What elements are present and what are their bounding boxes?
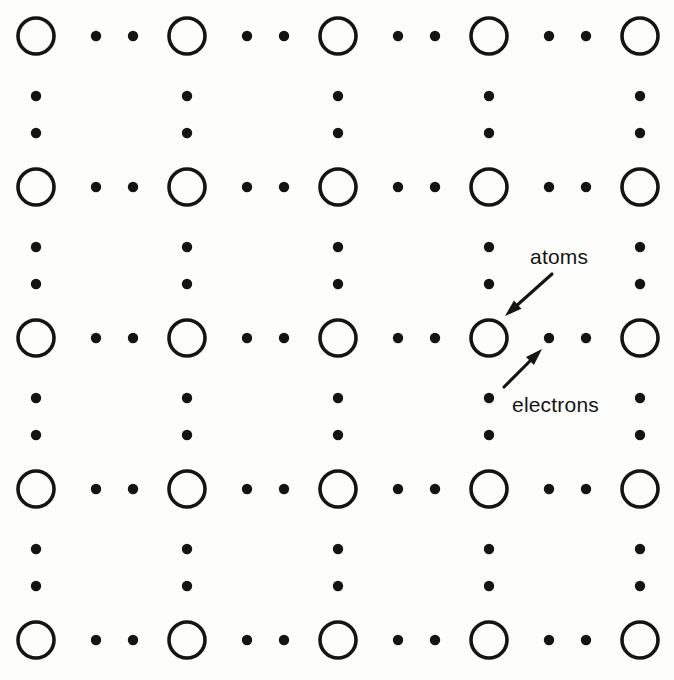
electron-dot: [544, 333, 554, 343]
electron-dot: [91, 484, 101, 494]
electron-dot: [31, 544, 41, 554]
electron-dot: [430, 182, 440, 192]
electron-dot: [182, 581, 192, 591]
electron-dot: [393, 484, 403, 494]
electron-dot: [128, 182, 138, 192]
electron-dot: [581, 333, 591, 343]
electron-dot: [544, 31, 554, 41]
electron-dot: [484, 128, 494, 138]
electron-dot: [182, 128, 192, 138]
lattice-diagram: atoms electrons: [0, 0, 674, 680]
electron-dot: [31, 279, 41, 289]
electron-dot: [31, 393, 41, 403]
electron-dot: [279, 484, 289, 494]
electron-dot: [182, 242, 192, 252]
electron-dot: [635, 581, 645, 591]
electron-dot: [581, 182, 591, 192]
electron-dot: [635, 393, 645, 403]
electron-dot: [279, 182, 289, 192]
electron-dot: [128, 31, 138, 41]
electron-dot: [31, 128, 41, 138]
figure-background: [0, 0, 674, 680]
electron-dot: [581, 635, 591, 645]
electron-dot: [333, 430, 343, 440]
electron-dot: [544, 484, 554, 494]
electron-dot: [430, 31, 440, 41]
electron-dot: [581, 484, 591, 494]
lattice-figure: atoms electrons: [0, 0, 674, 680]
electron-dot: [635, 430, 645, 440]
electron-dot: [242, 484, 252, 494]
electron-dot: [182, 393, 192, 403]
electron-dot: [31, 91, 41, 101]
electron-dot: [635, 128, 645, 138]
electron-dot: [484, 279, 494, 289]
electron-dot: [581, 31, 591, 41]
electron-dot: [91, 182, 101, 192]
electron-dot: [635, 279, 645, 289]
atoms-label: atoms: [530, 245, 588, 268]
electron-dot: [484, 242, 494, 252]
electron-dot: [333, 242, 343, 252]
electron-dot: [393, 333, 403, 343]
electron-dot: [484, 581, 494, 591]
electron-dot: [484, 393, 494, 403]
electron-dot: [544, 182, 554, 192]
electron-dot: [91, 31, 101, 41]
electron-dot: [279, 31, 289, 41]
electron-dot: [393, 31, 403, 41]
electron-dot: [128, 484, 138, 494]
electron-dot: [242, 635, 252, 645]
electron-dot: [333, 581, 343, 591]
electron-dot: [635, 242, 645, 252]
electron-dot: [544, 635, 554, 645]
electron-dot: [484, 91, 494, 101]
electron-dot: [242, 182, 252, 192]
electron-dot: [31, 581, 41, 591]
electron-dot: [242, 31, 252, 41]
electron-dot: [430, 635, 440, 645]
electron-dot: [182, 279, 192, 289]
electron-dot: [333, 279, 343, 289]
electrons-label: electrons: [512, 393, 599, 416]
electron-dot: [31, 242, 41, 252]
electron-dot: [128, 333, 138, 343]
electron-dot: [635, 91, 645, 101]
electron-dot: [242, 333, 252, 343]
electron-dot: [393, 635, 403, 645]
electron-dot: [635, 544, 645, 554]
electron-dot: [31, 430, 41, 440]
electron-dot: [333, 544, 343, 554]
electron-dot: [430, 484, 440, 494]
electron-dot: [182, 430, 192, 440]
electron-dot: [393, 182, 403, 192]
electron-dot: [182, 544, 192, 554]
electron-dot: [333, 91, 343, 101]
electron-dot: [279, 333, 289, 343]
electron-dot: [182, 91, 192, 101]
electron-dot: [91, 333, 101, 343]
electron-dot: [279, 635, 289, 645]
electron-dot: [91, 635, 101, 645]
electron-dot: [333, 128, 343, 138]
electron-dot: [484, 430, 494, 440]
electron-dot: [430, 333, 440, 343]
electron-dot: [484, 544, 494, 554]
electron-dot: [333, 393, 343, 403]
electron-dot: [128, 635, 138, 645]
